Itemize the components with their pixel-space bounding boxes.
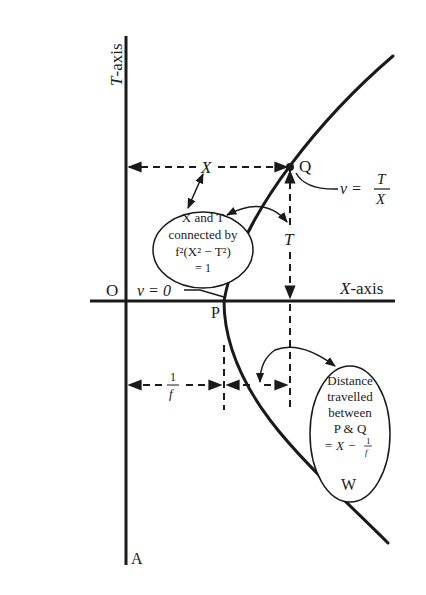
t-axis-label: T-axis [107,43,126,86]
v-zero-label: v = 0 [137,282,171,299]
one-over-f-denominator: f [169,386,175,401]
bottom-label-a: A [131,550,143,567]
x-axis-label: X-axis [339,279,383,298]
callout-xt-line3: f²(X² − T²) [175,244,231,259]
velocity-denominator: X [375,191,386,207]
leader-v-zero [184,290,224,297]
point-q-label: Q [299,157,311,176]
velocity-numerator: T [377,171,387,187]
origin-label: O [106,281,118,300]
callout-xt-line4: = 1 [195,261,211,275]
leader-x-to-callout [188,174,203,208]
callout-distance-line4: P & Q [334,421,367,436]
callout-distance-line3: between [328,405,372,420]
callout-distance-line1: Distance [327,373,373,388]
leader-callout-to-distance [260,347,335,382]
callout-distance-line2: travelled [327,389,373,404]
point-q-marker [286,163,294,171]
velocity-label-lhs: v = [340,180,362,197]
point-p-label: P [211,304,220,321]
callout-distance-line5: = X − [324,438,356,453]
hyperbolic-motion-diagram: T-axis X-axis O A P Q W X T 1 f v = 0 v … [0,0,426,595]
t-dimension-label: T [284,230,295,249]
callout-xt-line1: X and T [182,210,224,225]
x-dimension-label: X [200,158,212,177]
point-w-label: W [341,476,357,493]
callout-xt-line2: connected by [169,227,238,242]
one-over-f-numerator: 1 [170,370,176,384]
callout-distance-frac-num: 1 [366,436,371,446]
